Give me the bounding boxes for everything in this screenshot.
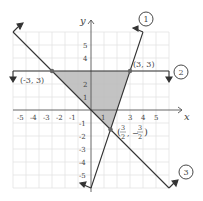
inequality-graph: x y -5 -4 -3 -2 -1 1 3 4 5 1 2 4 5 -1 -2… [0, 0, 203, 201]
x-tick: 4 [141, 114, 146, 122]
x-tick: -5 [17, 114, 24, 122]
y-tick: -4 [79, 159, 86, 167]
x-tick: -3 [43, 114, 50, 122]
svg-text:2: 2 [121, 133, 125, 141]
x-tick: -2 [56, 114, 63, 122]
svg-text:3: 3 [121, 124, 125, 132]
x-tick: 3 [128, 114, 132, 122]
vertex-point [108, 127, 112, 131]
y-tick: -1 [79, 120, 86, 128]
arrow-icon [10, 77, 16, 82]
y-tick: 2 [83, 81, 87, 89]
y-tick: 5 [83, 42, 87, 50]
y-tick: -2 [79, 133, 86, 141]
line-2-label: 2 [178, 68, 183, 77]
vertex-point [50, 69, 54, 73]
y-tick: -5 [79, 172, 86, 180]
line-1-label: 1 [143, 15, 148, 24]
point-label-3-3: (3, 3) [133, 60, 155, 69]
vertex-point [128, 69, 132, 73]
svg-text:3: 3 [138, 124, 142, 132]
y-tick: 4 [83, 55, 88, 63]
point-label-frac: ( 3 2 , − 3 2 ) [117, 124, 148, 141]
x-tick: 5 [154, 114, 158, 122]
y-tick: -3 [79, 146, 86, 154]
x-tick: -4 [30, 114, 37, 122]
arrow-icon [172, 180, 178, 186]
x-tick-labels: -5 -4 -3 -2 -1 1 3 4 5 [17, 114, 158, 122]
x-tick: -1 [69, 114, 76, 122]
arrow-icon [133, 26, 138, 31]
line-3-label: 3 [183, 168, 188, 177]
y-tick: 1 [83, 94, 87, 102]
svg-text:): ) [144, 126, 148, 137]
x-axis-label: x [184, 111, 190, 122]
arrow-icon [166, 77, 172, 82]
arrow-icon [80, 182, 86, 187]
y-tick-labels: 1 2 4 5 -1 -2 -3 -4 -5 [79, 42, 88, 180]
y-axis-label: y [79, 15, 86, 26]
point-label-neg3-3: (-3, 3) [20, 76, 44, 85]
arrow-icon [17, 23, 23, 29]
svg-text:2: 2 [138, 133, 142, 141]
